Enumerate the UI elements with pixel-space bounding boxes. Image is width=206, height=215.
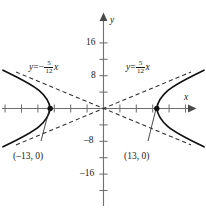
asymptote-left-sign: − (39, 62, 44, 72)
asymptote-left-fraction: 5 12 (44, 60, 53, 76)
asymptote-right-numerator: 5 (136, 60, 145, 67)
vertex-point-left (48, 106, 53, 111)
y-tick-label-16: 16 (86, 38, 96, 48)
asymptote-left-equation: y=− 5 12 x (29, 60, 58, 76)
graph-canvas (0, 0, 206, 215)
asymptote-right-equation: y= 5 12 x (126, 60, 150, 76)
asymptote-right-denominator: 12 (136, 67, 145, 75)
y-tick-label-8: 8 (91, 71, 96, 81)
asymptote-left-variable: x (54, 62, 58, 72)
leader-lines (41, 111, 156, 142)
vertex-label-left: (–13, 0) (13, 152, 43, 162)
asymptote-left-denominator: 12 (44, 67, 53, 75)
hyperbola-figure: y x 16 8 –8 –16 (–13, 0) (13, 0) y=− 5 1… (0, 0, 206, 215)
leader-line-left (41, 111, 49, 142)
x-axis-label: x (184, 93, 188, 103)
asymptote-left-numerator: 5 (44, 60, 53, 67)
asymptote-right-fraction: 5 12 (136, 60, 145, 76)
vertex-point-right (154, 106, 159, 111)
vertex-label-right: (13, 0) (124, 152, 149, 162)
asymptote-right-equals: = (130, 62, 135, 72)
y-axis-arrowhead (100, 13, 108, 22)
leader-line-right (148, 111, 156, 142)
y-tick-label-minus-16: –16 (80, 169, 94, 179)
y-tick-label-minus-8: –8 (84, 136, 94, 146)
axes-group (2, 13, 197, 207)
asymptote-right-variable: x (146, 62, 150, 72)
y-axis-label: y (110, 16, 114, 26)
x-axis-arrowhead (188, 105, 197, 113)
